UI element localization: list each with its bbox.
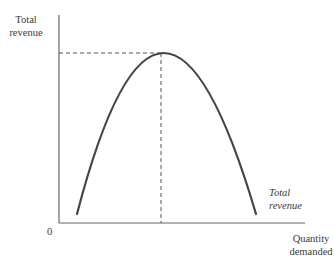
- y-axis-label-line-2: revenue: [4, 26, 48, 39]
- curve-label-line-2: revenue: [269, 199, 309, 212]
- x-axis-label-line-1: Quantity: [288, 232, 334, 245]
- curve-label-line-1: Total: [269, 186, 309, 199]
- y-axis-label: Total revenue: [4, 13, 48, 39]
- total-revenue-curve: [77, 53, 256, 214]
- y-axis-label-line-1: Total: [4, 13, 48, 26]
- x-axis-label: Quantity demanded: [288, 232, 334, 258]
- x-axis-label-line-2: demanded: [288, 245, 334, 258]
- origin-label: 0: [47, 225, 52, 238]
- total-revenue-curve-label: Total revenue: [269, 186, 309, 212]
